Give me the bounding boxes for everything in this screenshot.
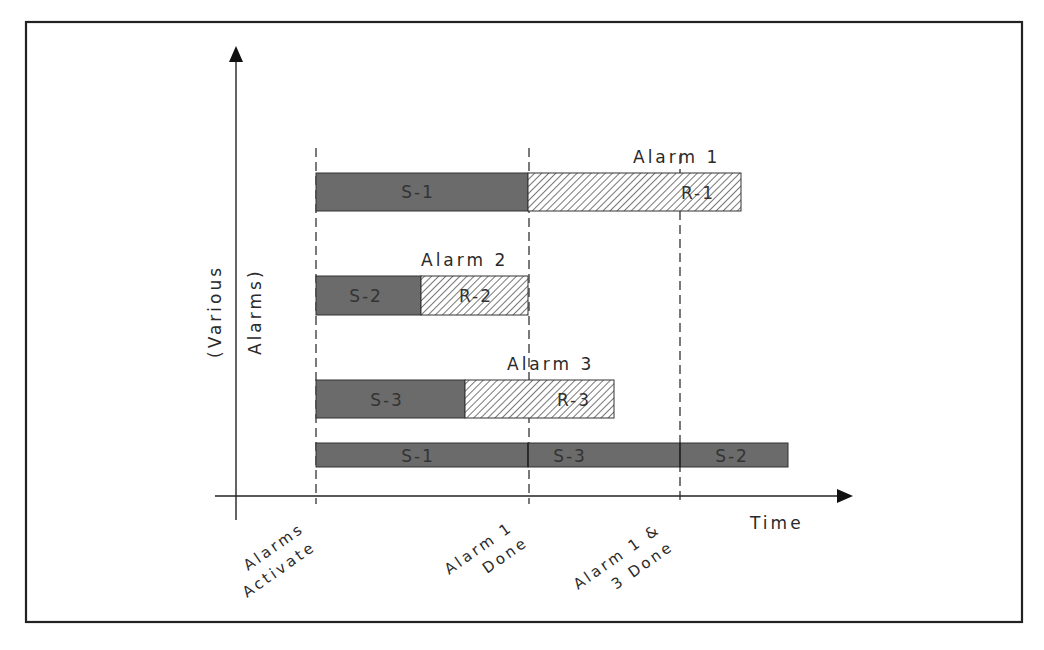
alarm-timeline-diagram: S-1 R-1 Alarm 1 S-2 R-2 Alarm 2 S-3 R-3 … bbox=[0, 0, 1044, 650]
combined-label-1: S-1 bbox=[401, 446, 435, 466]
milestone-label-alarm1-done: Alarm 1 Done bbox=[441, 518, 531, 578]
combined-service-row: S-1 S-3 S-2 bbox=[316, 443, 788, 467]
y-axis-arrow-icon bbox=[229, 46, 243, 62]
combined-label-3: S-2 bbox=[715, 446, 749, 466]
x-axis-label: Time bbox=[749, 513, 804, 533]
alarm-1-title: Alarm 1 bbox=[633, 147, 720, 167]
response-label-r2: R-2 bbox=[459, 286, 493, 306]
alarm-2-title: Alarm 2 bbox=[421, 250, 508, 270]
x-axis-arrow-icon bbox=[837, 489, 853, 503]
milestone-label-alarm13-done: Alarm 1 & 3 Done bbox=[570, 520, 677, 593]
y-axis-label-line1: (Various bbox=[205, 265, 225, 358]
alarm-3-row: S-3 R-3 Alarm 3 bbox=[316, 354, 614, 418]
response-label-r1: R-1 bbox=[681, 183, 715, 203]
combined-label-2: S-3 bbox=[553, 446, 587, 466]
service-label-s2: S-2 bbox=[349, 286, 383, 306]
alarm-3-title: Alarm 3 bbox=[507, 354, 594, 374]
combined-segment-2 bbox=[528, 443, 680, 467]
service-label-s3: S-3 bbox=[370, 390, 404, 410]
y-axis-label: (Various Alarms) bbox=[205, 265, 265, 358]
x-axis bbox=[215, 489, 853, 503]
service-label-s1: S-1 bbox=[401, 182, 435, 202]
diagram-frame bbox=[26, 22, 1022, 622]
response-label-r3: R-3 bbox=[557, 390, 591, 410]
milestone-label-activate: Alarms Activate bbox=[239, 519, 319, 601]
response-bar-r3 bbox=[465, 380, 614, 418]
y-axis bbox=[229, 46, 243, 520]
alarm-2-row: S-2 R-2 Alarm 2 bbox=[316, 250, 528, 315]
y-axis-label-line2: Alarms) bbox=[245, 268, 265, 355]
